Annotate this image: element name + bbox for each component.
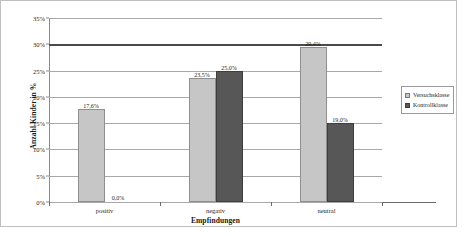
- gridline: [49, 202, 382, 203]
- y-tick-label: 10%: [33, 146, 45, 153]
- y-tick-label: 35%: [33, 15, 45, 22]
- bar: 19,0%: [327, 123, 354, 202]
- y-tick-label: 5%: [36, 172, 45, 179]
- bar-value-label: 17,6%: [83, 103, 99, 109]
- plot-area: 0%5%10%15%20%25%30%35%17,6%0,0%23,5%25,0…: [49, 18, 382, 202]
- y-tick-mark: [46, 44, 49, 45]
- x-axis-title: Empfindungen: [49, 216, 382, 225]
- bar-value-label: 25,0%: [221, 65, 237, 71]
- y-tick-label: 30%: [33, 41, 45, 48]
- x-category-label: neutral: [317, 207, 335, 214]
- bar: 25,0%: [216, 71, 243, 202]
- y-tick-mark: [46, 149, 49, 150]
- legend-item: Kontrollklasse: [405, 100, 449, 110]
- x-tick-mark: [49, 202, 50, 206]
- bar: 17,6%: [78, 109, 105, 202]
- x-category-label: positiv: [96, 207, 114, 214]
- bar-value-label: 19,0%: [332, 117, 348, 123]
- x-tick-mark: [160, 202, 161, 206]
- bar: 23,5%: [189, 78, 216, 202]
- y-tick-mark: [46, 123, 49, 124]
- x-tick-mark: [271, 202, 272, 206]
- y-tick-label: 15%: [33, 120, 45, 127]
- gridline: [49, 44, 382, 46]
- legend-swatch-icon: [405, 93, 410, 98]
- legend-swatch-icon: [405, 103, 410, 108]
- chart-frame: Anzahl Kinder in % 0%5%10%15%20%25%30%35…: [0, 0, 457, 227]
- x-tick-mark: [382, 202, 383, 206]
- y-tick-mark: [46, 175, 49, 176]
- legend-item-label: Versuchsklasse: [413, 92, 449, 98]
- bar-value-label: 29,4%: [305, 41, 321, 47]
- chart-legend: Versuchsklasse Kontrollklasse: [401, 86, 454, 114]
- x-category-label: negativ: [206, 207, 225, 214]
- legend-item: Versuchsklasse: [405, 90, 449, 100]
- bar-value-label: 23,5%: [194, 72, 210, 78]
- gridline: [49, 18, 382, 19]
- y-tick-label: 20%: [33, 93, 45, 100]
- y-tick-label: 0%: [36, 199, 45, 206]
- y-tick-mark: [46, 70, 49, 71]
- y-tick-mark: [46, 96, 49, 97]
- y-tick-label: 25%: [33, 67, 45, 74]
- bar: 29,4%: [300, 47, 327, 202]
- legend-item-label: Kontrollklasse: [413, 102, 448, 108]
- bar-value-label: 0,0%: [112, 195, 125, 201]
- y-tick-mark: [46, 18, 49, 19]
